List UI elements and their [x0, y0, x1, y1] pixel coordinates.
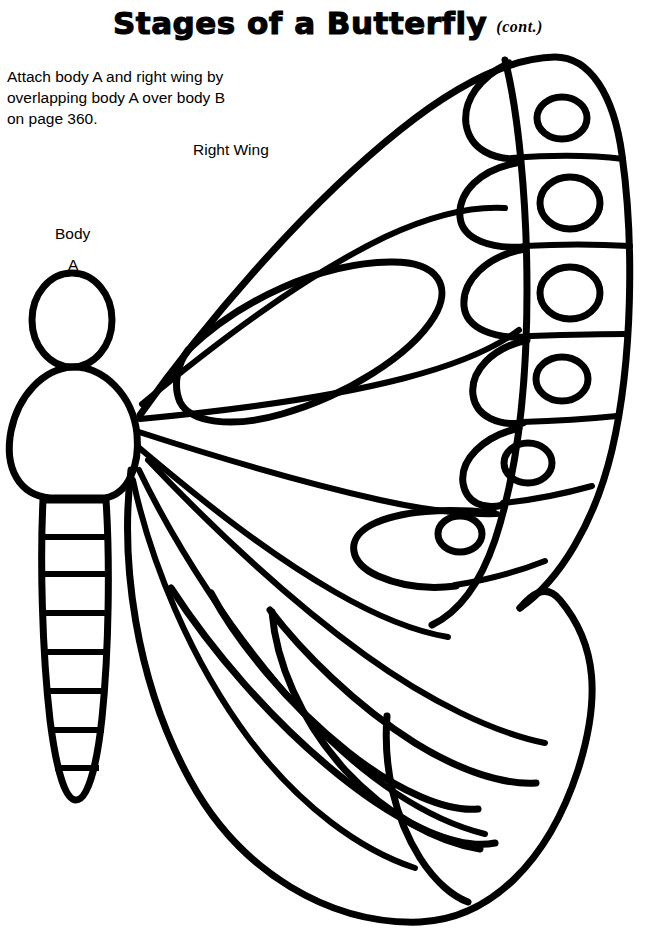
eyespot-6	[438, 516, 482, 552]
eyespot-2	[540, 177, 600, 229]
thorax-outline	[9, 367, 137, 498]
eyespot-1	[537, 97, 587, 139]
forewing-crossvein-2	[524, 245, 630, 247]
forewing-vein-1	[142, 208, 505, 404]
eyespot-cell-3	[464, 249, 527, 337]
forewing-crossvein-1	[512, 156, 623, 159]
hindwing-petal-2	[270, 610, 536, 783]
eyespot-4	[536, 357, 588, 401]
forewing-crossvein-4	[522, 416, 617, 422]
forewing-crossvein-3	[527, 334, 627, 336]
butterfly-illustration	[0, 0, 656, 935]
eyespot-3	[540, 267, 600, 319]
head-outline	[32, 273, 112, 367]
worksheet-page: Stages of a Butterfly(cont.) Attach body…	[0, 0, 656, 935]
forewing-crossvein-6	[455, 561, 545, 585]
forewing-crossvein-5	[503, 486, 592, 503]
